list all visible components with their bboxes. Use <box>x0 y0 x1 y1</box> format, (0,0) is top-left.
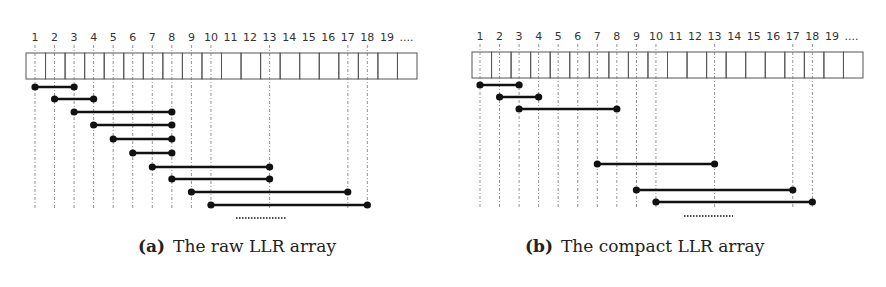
segment-start-dot <box>71 108 78 115</box>
segment-end-dot <box>168 149 175 156</box>
array-cell <box>843 52 863 78</box>
index-label: 19 <box>825 30 839 43</box>
array-cell <box>492 52 512 78</box>
array-cell <box>280 53 300 79</box>
segment-end-dot <box>344 188 351 195</box>
segment-end-dot <box>168 108 175 115</box>
segment-start-dot <box>652 198 659 205</box>
index-label: 17 <box>341 31 355 44</box>
array-cell <box>824 52 844 78</box>
caption-b-label: (b) <box>525 236 553 256</box>
array-cell <box>202 53 222 79</box>
index-label: 11 <box>224 31 238 44</box>
index-label: 17 <box>786 30 800 43</box>
segment-end-dot <box>535 93 542 100</box>
array-cell <box>85 53 105 79</box>
array-cell <box>300 53 320 79</box>
index-label: 12 <box>243 31 257 44</box>
index-label: 14 <box>727 30 741 43</box>
llr-segment <box>71 108 176 115</box>
llr-segment <box>31 83 77 90</box>
segment-start-dot <box>633 186 640 193</box>
array-cell <box>472 52 492 78</box>
llr-segment <box>149 163 274 170</box>
segment-start-dot <box>129 149 136 156</box>
index-label: 13 <box>263 31 277 44</box>
array-cell <box>261 53 281 79</box>
array-cell <box>397 53 417 79</box>
index-label: 3 <box>516 30 523 43</box>
segment-start-dot <box>516 105 523 112</box>
segment-end-dot <box>168 121 175 128</box>
index-label: 9 <box>633 30 640 43</box>
segment-end-dot <box>266 175 273 182</box>
array-cell <box>104 53 124 79</box>
panel-raw-llr-array: 12345678910111213141516171819.... <box>26 31 417 218</box>
array-cell <box>765 52 785 78</box>
llr-segment <box>516 105 621 112</box>
index-label: 4 <box>535 30 542 43</box>
array-cell <box>65 53 85 79</box>
array-cell <box>746 52 766 78</box>
caption-a: (a)The raw LLR array <box>138 236 336 256</box>
array-cell <box>668 52 688 78</box>
array-cell <box>589 52 609 78</box>
array-cell <box>804 52 824 78</box>
array-cell <box>511 52 531 78</box>
caption-a-label: (a) <box>138 236 165 256</box>
segment-end-dot <box>516 81 523 88</box>
array-cell <box>222 53 242 79</box>
index-label: 9 <box>188 31 195 44</box>
index-label: 2 <box>51 31 58 44</box>
llr-segment <box>633 186 797 193</box>
segment-start-dot <box>207 201 214 208</box>
array-cell <box>124 53 144 79</box>
segment-start-dot <box>168 175 175 182</box>
llr-segment <box>168 175 273 182</box>
index-label: 15 <box>747 30 761 43</box>
index-label: 7 <box>594 30 601 43</box>
array-cell <box>182 53 202 79</box>
llr-segment <box>207 201 371 208</box>
index-label: 5 <box>110 31 117 44</box>
segment-start-dot <box>110 135 117 142</box>
index-label: 6 <box>129 31 136 44</box>
index-label: 16 <box>766 30 780 43</box>
index-label: .... <box>844 30 858 43</box>
index-label: 7 <box>149 31 156 44</box>
segment-start-dot <box>31 83 38 90</box>
segment-start-dot <box>51 95 58 102</box>
caption-b: (b)The compact LLR array <box>525 236 764 256</box>
segment-start-dot <box>90 121 97 128</box>
index-label: 10 <box>204 31 218 44</box>
array-cell <box>339 53 359 79</box>
segment-end-dot <box>613 105 620 112</box>
segment-start-dot <box>149 163 156 170</box>
array-cell <box>46 53 66 79</box>
index-label: 18 <box>360 31 374 44</box>
segment-end-dot <box>71 83 78 90</box>
array-cell <box>319 53 339 79</box>
index-label: 6 <box>574 30 581 43</box>
index-label: 8 <box>613 30 620 43</box>
caption-a-text: The raw LLR array <box>173 236 336 256</box>
llr-segment <box>476 81 522 88</box>
array-cell <box>163 53 183 79</box>
array-cell <box>550 52 570 78</box>
array-cell <box>531 52 551 78</box>
index-label: 13 <box>708 30 722 43</box>
array-cell <box>26 53 46 79</box>
index-label: 16 <box>321 31 335 44</box>
array-cell <box>609 52 629 78</box>
segment-start-dot <box>188 188 195 195</box>
index-label: 14 <box>282 31 296 44</box>
array-cell <box>570 52 590 78</box>
segment-end-dot <box>809 198 816 205</box>
segment-start-dot <box>496 93 503 100</box>
index-label: 3 <box>71 31 78 44</box>
array-cell <box>726 52 746 78</box>
array-cell <box>707 52 727 78</box>
llr-segment <box>110 135 176 142</box>
index-label: 18 <box>805 30 819 43</box>
index-label: 5 <box>555 30 562 43</box>
